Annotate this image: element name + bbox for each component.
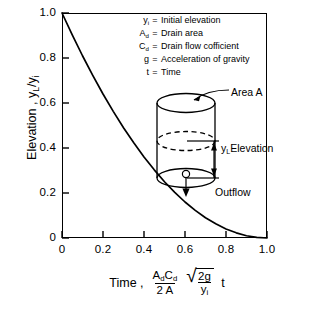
legend-symbol: Cd [133, 41, 149, 54]
elevation-symbol: yL [221, 142, 230, 154]
y-axis-title-denominator: yi [25, 75, 39, 83]
outflow-indicator [182, 170, 189, 197]
legend-symbol: Ad [133, 28, 149, 41]
legend-definition: Initial elevation [161, 15, 221, 26]
x-axis-radical: √ 2g yi [186, 268, 214, 297]
legend-row: g = Acceleration of gravity [133, 54, 250, 67]
legend-equals: = [149, 28, 161, 39]
x-axis-radical-body: 2g yi [196, 268, 215, 297]
legend-symbol: g [133, 54, 149, 67]
legend-equals: = [149, 54, 161, 65]
x-axis-title: Time , AdCd 2 A √ 2g yi t [62, 268, 272, 297]
legend-symbol: yi [133, 15, 149, 28]
x-axis-fraction: AdCd 2 A [151, 269, 180, 296]
legend-equals: = [149, 67, 161, 78]
elevation-dimension [187, 141, 219, 178]
legend-definition: Drain area [161, 28, 203, 39]
area-a-label: Area A [231, 86, 263, 98]
x-tick-label-1-0: 1.0 [250, 243, 284, 255]
elevation-label-text: Elevation [230, 142, 273, 154]
outflow-label: Outflow [215, 186, 251, 198]
tank-top-ellipse [157, 94, 215, 113]
area-a-leader [194, 90, 229, 101]
legend-row: t = Time [133, 67, 250, 80]
y-axis-title: Elevation , yL/yi [25, 38, 40, 198]
legend-row: Cd = Drain flow cofficient [133, 41, 250, 54]
legend-equals: = [149, 41, 161, 52]
figure-tank-draining-curve: 1.0 0.8 0.6 0.4 0.2 0 0 0.2 0.4 0.6 0.8 … [0, 0, 312, 314]
x-tick-label-0-2: 0.2 [86, 243, 120, 255]
x-axis-fraction-denominator: 2 A [155, 283, 176, 296]
legend-equals: = [149, 15, 161, 26]
legend-row: Ad = Drain area [133, 28, 250, 41]
y-axis-ticks [62, 13, 69, 238]
y-tick-label-0: 0 [22, 231, 56, 243]
x-axis-title-name: Time , [109, 276, 143, 290]
x-tick-label-0-4: 0.4 [127, 243, 161, 255]
legend-definition: Time [161, 67, 181, 78]
y-tick-label-1-0: 1.0 [22, 6, 56, 18]
radical-numerator: 2g [198, 270, 211, 282]
y-axis-title-slash: / [25, 84, 39, 87]
x-tick-label-0: 0 [45, 243, 79, 255]
drain-orifice [182, 170, 189, 177]
legend-symbol: t [133, 67, 149, 80]
radical-denominator: yi [198, 282, 212, 297]
x-tick-label-0-8: 0.8 [209, 243, 243, 255]
y-axis-title-numerator: yL [25, 87, 39, 98]
x-axis-fraction-numerator: AdCd [151, 269, 180, 283]
elevation-label: yLElevation [221, 142, 273, 156]
legend-definition: Drain flow cofficient [161, 41, 239, 52]
x-tick-label-0-6: 0.6 [168, 243, 202, 255]
symbol-legend: yi = Initial elevation Ad = Drain area C… [133, 15, 250, 80]
y-axis-title-name: Elevation , [25, 102, 39, 160]
legend-definition: Acceleration of gravity [161, 54, 250, 65]
x-axis-title-trailing: t [221, 276, 224, 290]
legend-row: yi = Initial elevation [133, 15, 250, 28]
outflow-arrowhead [182, 189, 189, 198]
